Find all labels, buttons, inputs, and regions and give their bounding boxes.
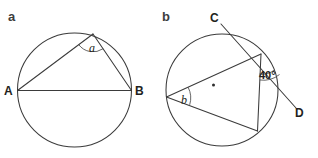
panel-a: a a A B: [4, 9, 144, 147]
angle-label-a: a: [89, 41, 95, 55]
vertex-label-d: D: [295, 106, 304, 120]
chord-b-left-to-topright: [167, 54, 262, 97]
circle-b-center-dot: [212, 84, 215, 87]
panel-b-label: b: [162, 9, 170, 24]
vertex-label-b: B: [135, 84, 144, 98]
figure-canvas: a a A B b: [0, 0, 318, 158]
chord-a-apex-to-a: [18, 34, 94, 91]
chord-a-apex-to-b: [93, 34, 132, 91]
angle-label-40-degrees: 40°: [259, 69, 276, 81]
panel-b: b 40° b C D: [162, 9, 304, 146]
geometry-figure: a a A B b: [0, 0, 318, 158]
vertex-label-c: C: [210, 11, 219, 25]
angle-arc-b: [188, 87, 191, 105]
panel-a-label: a: [8, 9, 16, 24]
angle-label-b: b: [181, 93, 187, 107]
vertex-label-a: A: [4, 84, 13, 98]
tangent-line-cd: [221, 24, 296, 108]
